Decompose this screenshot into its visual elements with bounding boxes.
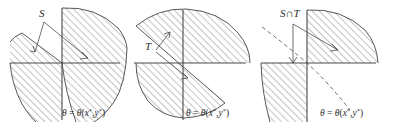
panel-st-canvas: S∩T θ = θ(x*,y*) bbox=[258, 0, 394, 126]
region-st-upper-right bbox=[307, 10, 378, 63]
panel-set-t: T θ = θ(x*,y*) bbox=[128, 0, 259, 126]
panel-st-shaded-regions bbox=[261, 10, 378, 122]
curve-label-theta-s: θ = θ(x*,y*) bbox=[62, 107, 105, 120]
panel-s-shaded-regions bbox=[10, 8, 127, 122]
curve-label-theta-t: θ = θ(x*,y*) bbox=[186, 107, 229, 120]
figure-root: S θ = θ(x*,y*) bbox=[0, 0, 394, 126]
region-t-upper bbox=[136, 9, 250, 63]
region-s-right-lobe bbox=[62, 8, 127, 63]
panel-set-s-intersect-t: S∩T θ = θ(x*,y*) bbox=[258, 0, 394, 126]
region-s-lower-left bbox=[10, 63, 62, 122]
set-label-s: S bbox=[39, 7, 45, 19]
set-label-t: T bbox=[145, 40, 152, 52]
panel-set-s: S θ = θ(x*,y*) bbox=[0, 0, 131, 126]
set-label-s-intersect-t: S∩T bbox=[280, 7, 300, 19]
panel-s-canvas: S θ = θ(x*,y*) bbox=[0, 0, 131, 126]
curve-label-theta-st: θ = θ(x*,y*) bbox=[320, 107, 363, 120]
panel-t-canvas: T θ = θ(x*,y*) bbox=[128, 0, 259, 126]
